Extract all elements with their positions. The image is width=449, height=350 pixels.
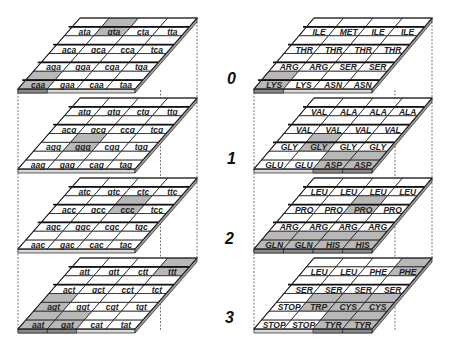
amino-cell-label: GLY [340, 142, 358, 152]
codon-stack: atagtactattaacagcaccatcaagaggacgatgacaag… [18, 18, 197, 333]
codon-cell-label: gct [91, 285, 106, 295]
codon-cell-label: gtg [106, 107, 121, 117]
codon-layer-2: atcgtcctcttcaccgccccctccagcggccgctgcaacg… [18, 178, 197, 253]
amino-cell-label: ALA [368, 107, 386, 117]
codon-layer-3: attgttctttttactgctccttctagtggtcgttgtaatg… [18, 258, 197, 333]
codon-cell-label: ggc [74, 222, 90, 232]
amino-cell-label: ARG [308, 222, 328, 232]
codon-cell-label: cga [105, 62, 120, 72]
codon-cell-label: ccg [120, 125, 135, 135]
codon-cell-label: gca [90, 45, 106, 55]
codon-cell-label: agg [46, 142, 62, 152]
genetic-code-3d-diagram: atagtactattaacagcaccatcaagaggacgatgacaag… [0, 0, 449, 350]
codon-cell-label: aca [62, 45, 76, 55]
codon-cell-label: atc [78, 187, 91, 197]
codon-cell-label: gtt [107, 267, 120, 277]
amino-cell-label: PHE [369, 267, 387, 277]
amino-cell-label: PHE [399, 267, 417, 277]
amino-cell-label: ARG [279, 222, 299, 232]
codon-cell-label: ttt [168, 267, 178, 277]
amino-cell-label: VAL [296, 125, 312, 135]
amino-cell-label: PRO [295, 205, 314, 215]
codon-cell-label: ggt [75, 302, 90, 312]
amino-cell-label: ARG [367, 222, 387, 232]
codon-cell-label: tta [167, 27, 178, 37]
codon-cell-label: ggg [74, 142, 91, 152]
codon-cell-label: cgc [105, 222, 120, 232]
amino-cell-label: TRP [310, 302, 327, 312]
amino-cell-label: LEU [399, 187, 417, 197]
amino-cell-label: ALA [398, 107, 416, 117]
amino-layer-3: LEULEUPHEPHESERSERSERSERSTOPTRPCYSCYSSTO… [254, 258, 432, 333]
amino-cell-label: ARG [308, 62, 328, 72]
codon-cell-label: gta [106, 27, 120, 37]
amino-cell-label: ILE [313, 27, 327, 37]
codon-cell-label: gga [74, 62, 90, 72]
codon-cell-label: ctc [137, 187, 150, 197]
layer-label-1: 1 [227, 150, 236, 167]
amino-cell-label: SER [295, 285, 313, 295]
amino-layer-0: ILEMETSTARTILEILETHRTHRTHRTHRARGARGSERSE… [254, 18, 432, 93]
amino-cell-label: VAL [325, 125, 341, 135]
amino-layer-2: LEULEULEULEUPROPROPROPROARGARGARGARGGLNG… [254, 178, 432, 253]
amino-cell-label: SER [339, 62, 357, 72]
amino-cell-label: PRO [324, 205, 343, 215]
amino-cell-label: LEU [311, 187, 329, 197]
codon-cell-label: tgt [136, 302, 148, 312]
layer-labels: 0 1 2 3 [224, 70, 236, 326]
layer-label-3: 3 [225, 309, 234, 326]
amino-cell-label: THR [295, 45, 313, 55]
amino-cell-label: CYS [339, 302, 357, 312]
codon-cell-label: agt [47, 302, 61, 312]
codon-cell-label: gcg [90, 125, 107, 135]
amino-cell-label: STOP [278, 302, 301, 312]
amino-cell-label: CYS [369, 302, 387, 312]
amino-cell-label: SER [384, 285, 402, 295]
codon-cell-label: gcc [90, 205, 106, 215]
layer-label-2: 2 [224, 230, 234, 247]
codon-cell-label: tcc [151, 205, 164, 215]
amino-cell-label: PRO [383, 205, 402, 215]
amino-layer-1: VALALAALAALAVALVALVALVALGLYGLYGLYGLYGLUG… [254, 98, 432, 173]
amino-cell-label: SER [369, 62, 387, 72]
codon-cell-label: tct [152, 285, 164, 295]
codon-cell-label: cgt [106, 302, 120, 312]
amino-cell-label: THR [354, 45, 372, 55]
codon-cell-label: gtc [106, 187, 120, 197]
codon-cell-label: acc [62, 205, 76, 215]
codon-cell-label: cct [121, 285, 134, 295]
amino-cell-label: LEU [311, 267, 329, 277]
codon-cell-label: cta [137, 27, 150, 37]
amino-cell-label: VAL [384, 125, 400, 135]
codon-cell-label: agc [46, 222, 61, 232]
amino-cell-label: THR [325, 45, 343, 55]
codon-cell-label: ttc [167, 187, 178, 197]
amino-cell-label: VAL [355, 125, 371, 135]
codon-layer-0: atagtactattaacagcaccatcaagaggacgatgacaag… [18, 18, 197, 93]
codon-cell-label: cca [121, 45, 135, 55]
amino-cell-label: SER [325, 285, 343, 295]
amino-cell-label: PRO [354, 205, 373, 215]
amino-cell-label: LEU [370, 187, 388, 197]
codon-cell-label: ctg [137, 107, 151, 117]
codon-layer-1: atggtgctgttgacggcgccgtcgagggggcggtggaagg… [18, 98, 197, 173]
codon-cell-label: cgg [105, 142, 121, 152]
codon-cell-label: ttg [167, 107, 179, 117]
codon-cell-label: tgg [135, 142, 149, 152]
amino-cell-label: ILE [401, 27, 415, 37]
amino-cell-label: ILE [372, 27, 386, 37]
amino-cell-label: ARG [279, 62, 299, 72]
amino-cell-label: VAL [311, 107, 327, 117]
codon-cell-label: ata [78, 27, 91, 37]
amino-cell-label: SER [354, 285, 372, 295]
codon-cell-label: acg [62, 125, 77, 135]
amino-cell-label: LEU [340, 187, 358, 197]
amino-cell-label: GLY [369, 142, 387, 152]
amino-acid-stack: ILEMETSTARTILEILETHRTHRTHRTHRARGARGSERSE… [254, 18, 432, 333]
layer-label-0: 0 [227, 70, 236, 87]
codon-cell-label: tcg [150, 125, 164, 135]
amino-cell-label: GLY [281, 142, 299, 152]
codon-cell-label: ctt [138, 267, 150, 277]
codon-cell-label: ccc [121, 205, 135, 215]
codon-cell-label: tga [135, 62, 148, 72]
